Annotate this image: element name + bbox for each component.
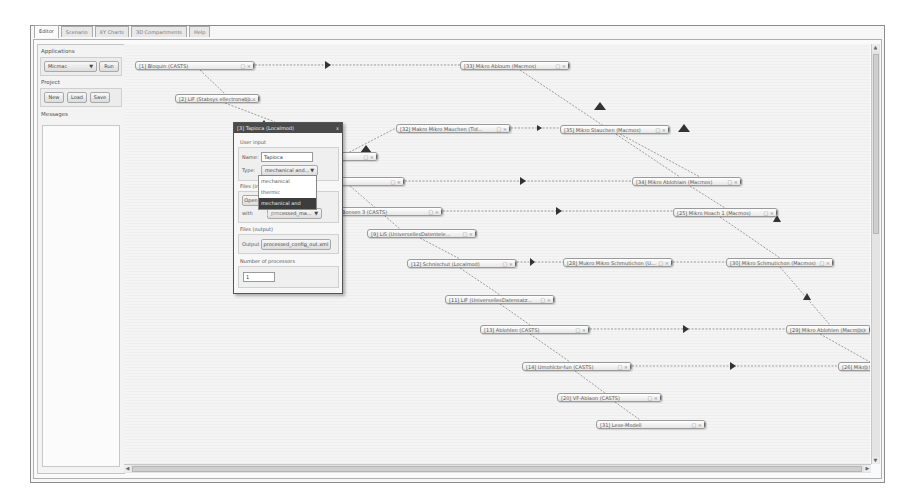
horizontal-scrollbar[interactable]: ◀ ▶ xyxy=(124,464,871,473)
node-output-port[interactable] xyxy=(588,327,590,333)
node-window-controls-icon[interactable]: □ × xyxy=(575,326,586,334)
workflow-node[interactable]: [12] Schnischut (Localmod)□ × xyxy=(407,259,517,268)
node-window-controls-icon[interactable]: □ × xyxy=(496,125,507,133)
node-window-controls-icon[interactable]: □ × xyxy=(691,421,702,429)
tab-scenario[interactable]: Scenario xyxy=(61,26,93,37)
scroll-down-button[interactable]: ▼ xyxy=(872,457,879,464)
node-window-controls-icon[interactable]: □ × xyxy=(763,209,774,217)
node-output-port[interactable] xyxy=(553,297,555,303)
node-output-port[interactable] xyxy=(258,96,260,102)
processors-field[interactable]: 1 xyxy=(243,272,275,282)
workflow-node[interactable]: [35] Mikro Stauchen (Macmos)□ × xyxy=(560,125,670,134)
node-window-controls-icon[interactable]: □ × xyxy=(363,153,374,161)
load-button[interactable]: Load xyxy=(67,92,87,103)
workflow-node[interactable]: [26] Mikro t□ × xyxy=(838,362,870,371)
type-dropdown-list[interactable]: mechanical thermic mechanical and thermi… xyxy=(258,175,317,210)
workflow-node[interactable]: [14] Umohlcbr-fun (CASTS)□ × xyxy=(522,362,632,371)
node-output-port[interactable] xyxy=(869,327,870,333)
node-window-controls-icon[interactable]: □ × xyxy=(863,363,870,371)
node-output-port[interactable] xyxy=(740,179,742,185)
node-window-controls-icon[interactable]: □ × xyxy=(819,259,830,267)
tab-3d-compartments[interactable]: 3D Compartments xyxy=(131,26,187,37)
output-label: Output xyxy=(242,241,259,247)
dialog-titlebar[interactable]: [3] Tapioca (Localmod) x xyxy=(234,123,342,133)
node-window-controls-icon[interactable]: □ × xyxy=(245,95,256,103)
save-button[interactable]: Save xyxy=(90,92,110,103)
type-option-mechanical-and-thermic[interactable]: mechanical and thermic xyxy=(259,198,316,209)
node-output-port[interactable] xyxy=(509,126,511,132)
node-output-port[interactable] xyxy=(441,209,443,215)
workflow-node[interactable]: [28] Mukro Mikro Schmutichon (U...□ × xyxy=(563,258,673,267)
node-window-controls-icon[interactable]: □ × xyxy=(647,394,658,402)
node-output-port[interactable] xyxy=(376,154,378,160)
node-output-port[interactable] xyxy=(403,179,405,185)
type-option-thermic[interactable]: thermic xyxy=(259,187,316,198)
scroll-right-button[interactable]: ▶ xyxy=(864,465,871,472)
node-label: [35] Mikro Stauchen (Macmos) xyxy=(564,127,641,133)
node-window-controls-icon[interactable]: □ × xyxy=(617,363,628,371)
workflow-node[interactable]: [29] Mikro Ablohlen (Macmos)□ × xyxy=(786,325,870,334)
node-output-port[interactable] xyxy=(776,210,778,216)
output-file-button[interactable]: processed_config_out.xml xyxy=(261,239,331,250)
workflow-node[interactable]: [20] VF-Ablaon (CASTS)□ × xyxy=(557,393,662,402)
node-window-controls-icon[interactable]: □ × xyxy=(655,126,666,134)
node-output-port[interactable] xyxy=(660,395,662,401)
node-window-controls-icon[interactable]: □ × xyxy=(555,62,566,70)
node-window-controls-icon[interactable]: □ × xyxy=(390,178,401,186)
workflow-node[interactable]: [32] Makro Mikro Mauchen (Tid...□ × xyxy=(396,124,511,133)
node-output-port[interactable] xyxy=(568,63,570,69)
node-output-port[interactable] xyxy=(253,63,255,69)
node-output-port[interactable] xyxy=(671,260,673,266)
run-button[interactable]: Run xyxy=(99,61,119,72)
new-button[interactable]: New xyxy=(44,92,64,103)
node-output-port[interactable] xyxy=(515,261,517,267)
type-select-value: mechanical and... xyxy=(265,167,309,173)
tab-editor[interactable]: Editor xyxy=(34,25,59,38)
scroll-up-button[interactable]: ▲ xyxy=(872,44,879,51)
tab-help[interactable]: Help xyxy=(189,26,210,37)
node-label: [32] Makro Mikro Mauchen (Tid... xyxy=(400,126,482,132)
messages-box[interactable] xyxy=(42,125,120,467)
workflow-node[interactable]: [2] LIF (Stabsys ellectronabo...□ × xyxy=(175,94,260,103)
chevron-down-icon: ▼ xyxy=(310,166,314,175)
node-label: [34] Mikro Ablohlain (Macmos) xyxy=(636,179,712,185)
tab-xy-charts[interactable]: XY Charts xyxy=(95,26,129,37)
chevron-down-icon: ▼ xyxy=(89,62,93,71)
node-window-controls-icon[interactable]: □ × xyxy=(428,208,439,216)
workflow-node[interactable]: [30] Mikro Schmutichon (Macmos)□ × xyxy=(726,258,834,267)
workflow-node[interactable]: [9] LiS (UniversellesDatentele...□ × xyxy=(367,229,477,238)
node-output-port[interactable] xyxy=(630,364,632,370)
type-label: Type: xyxy=(242,167,255,173)
workflow-node[interactable]: [34] Mikro Ablohlain (Macmos)□ × xyxy=(632,177,742,186)
workflow-node[interactable]: [11] LIF (UniversellesDatensatz...□ × xyxy=(445,295,555,304)
node-label: [33] Mikro Abloum (Macmos) xyxy=(464,63,536,69)
user-input-title: User input xyxy=(240,139,266,145)
close-icon[interactable]: x xyxy=(336,123,339,133)
node-window-controls-icon[interactable]: □ × xyxy=(540,296,551,304)
node-output-port[interactable] xyxy=(832,260,834,266)
node-window-controls-icon[interactable]: □ × xyxy=(240,62,251,70)
workflow-node[interactable]: [33] Mikro Abloum (Macmos)□ × xyxy=(460,61,570,70)
workflow-node[interactable]: [25] Mikro Hoach 1 (Macmos)□ × xyxy=(673,208,778,217)
node-label: [25] Mikro Hoach 1 (Macmos) xyxy=(677,210,751,216)
application-select[interactable]: Micmac ▼ xyxy=(44,61,97,72)
node-window-controls-icon[interactable]: □ × xyxy=(727,178,738,186)
workflow-node[interactable]: Bonsen 3 (CASTS)□ × xyxy=(338,207,443,216)
vertical-scroll-thumb[interactable] xyxy=(873,54,879,234)
scroll-left-button[interactable]: ◀ xyxy=(124,465,131,472)
name-field[interactable]: Tapioca xyxy=(261,152,313,162)
node-output-port[interactable] xyxy=(475,231,477,237)
vertical-scrollbar[interactable]: ▲ ▼ xyxy=(871,44,880,464)
type-option-mechanical[interactable]: mechanical xyxy=(259,176,316,187)
horizontal-scroll-thumb[interactable] xyxy=(132,466,862,472)
workflow-node[interactable]: [13] Ablohlen (CASTS)□ × xyxy=(480,325,590,334)
node-window-controls-icon[interactable]: □ × xyxy=(462,230,473,238)
workflow-node[interactable]: [31] Lese-Modell□ × xyxy=(596,420,706,429)
node-window-controls-icon[interactable]: □ × xyxy=(856,326,867,334)
node-output-port[interactable] xyxy=(704,422,706,428)
processors-group: 1 xyxy=(238,266,339,288)
node-window-controls-icon[interactable]: □ × xyxy=(502,260,513,268)
workflow-node[interactable]: [1] Bloquin (CASTS)□ × xyxy=(135,61,255,70)
node-window-controls-icon[interactable]: □ × xyxy=(658,259,669,267)
node-output-port[interactable] xyxy=(668,127,670,133)
